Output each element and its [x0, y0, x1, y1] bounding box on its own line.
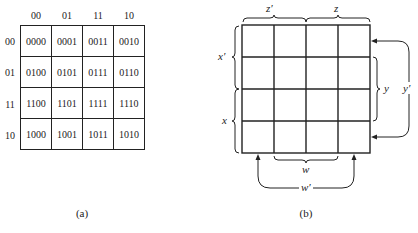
label-z: z	[334, 2, 338, 14]
label-y: y	[384, 82, 389, 94]
label-y-prime: y′	[402, 82, 411, 94]
label-x: x	[222, 114, 227, 126]
label-x-prime: x′	[218, 50, 225, 62]
caption-b: (b)	[296, 207, 316, 219]
kmap-grid-b-lines	[0, 0, 418, 233]
label-w-prime: w′	[299, 181, 313, 193]
label-w: w	[302, 163, 309, 175]
label-z-prime: z′	[266, 2, 273, 14]
